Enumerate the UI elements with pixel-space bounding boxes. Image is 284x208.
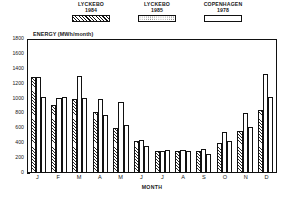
y-tick-label: 0 (21, 170, 24, 175)
y-tick-label: 1200 (12, 81, 24, 86)
y-tick-label: 1400 (12, 66, 24, 71)
x-tick-label-8: S (194, 174, 215, 184)
chart-legend: LYCKEBO 1984 LYCKEBO 1985 COPENHAGEN 197… (0, 2, 284, 32)
bar-group-o-9 (214, 40, 235, 172)
legend-label: LYCKEBO 1985 (131, 2, 183, 13)
bar-plain (124, 125, 129, 172)
bar-group-j-6 (152, 40, 173, 172)
x-tick-label-3: A (89, 174, 110, 184)
bar-group-n-10 (235, 40, 256, 172)
x-axis-ticks: JFMAMJJASOND (27, 174, 277, 184)
bar-plain (62, 97, 67, 172)
bar-plain (186, 151, 191, 172)
y-axis-ticks: 020040060080010001200140016001800 (0, 39, 27, 173)
bar-group-d-11 (255, 40, 276, 172)
y-axis-title: ENERGY (MWh/month) (33, 31, 93, 37)
chart-root: LYCKEBO 1984 LYCKEBO 1985 COPENHAGEN 197… (0, 0, 284, 208)
x-tick-label-0: J (27, 174, 48, 184)
legend-label: LYCKEBO 1984 (63, 2, 119, 13)
y-tick-label: 1000 (12, 96, 24, 101)
bar-plain (227, 141, 232, 172)
legend-item-copenhagen-1978: COPENHAGEN 1978 (192, 2, 254, 22)
bar-plain (165, 150, 170, 172)
bar-group-j-0 (28, 40, 49, 172)
bar-plain (268, 97, 273, 172)
legend-item-lyckebo-1984: LYCKEBO 1984 (63, 2, 119, 22)
x-tick-label-9: O (214, 174, 235, 184)
bar-plain (82, 98, 87, 172)
x-tick-label-5: J (131, 174, 152, 184)
x-axis-title: MONTH (27, 184, 277, 190)
bar-plain (144, 146, 149, 172)
plot-area (27, 39, 277, 173)
legend-item-lyckebo-1985: LYCKEBO 1985 (131, 2, 183, 22)
y-tick-label: 1600 (12, 51, 24, 56)
bar-groups (28, 40, 276, 172)
x-tick-label-11: D (256, 174, 277, 184)
legend-label: COPENHAGEN 1978 (192, 2, 254, 13)
bar-group-s-8 (193, 40, 214, 172)
y-tick-label: 800 (15, 111, 24, 116)
bar-plain (103, 115, 108, 172)
x-tick-label-10: N (235, 174, 256, 184)
bar-group-j-5 (131, 40, 152, 172)
x-tick-label-1: F (48, 174, 69, 184)
x-tick-label-4: M (110, 174, 131, 184)
x-tick-label-2: M (69, 174, 90, 184)
bar-plain (206, 154, 211, 172)
y-tick-label: 400 (15, 141, 24, 146)
bar-plain (248, 127, 253, 172)
y-tick-label: 600 (15, 126, 24, 131)
x-tick-label-7: A (173, 174, 194, 184)
bar-group-f-1 (49, 40, 70, 172)
legend-swatch-plain (204, 15, 242, 22)
legend-swatch-hatch (72, 15, 110, 22)
bar-group-m-4 (111, 40, 132, 172)
bar-group-m-2 (69, 40, 90, 172)
x-tick-label-6: J (152, 174, 173, 184)
bar-plain (41, 97, 46, 172)
legend-swatch-dot (138, 15, 176, 22)
bar-group-a-7 (173, 40, 194, 172)
y-tick-label: 200 (15, 156, 24, 161)
bar-group-a-3 (90, 40, 111, 172)
y-tick-label: 1800 (12, 36, 24, 41)
